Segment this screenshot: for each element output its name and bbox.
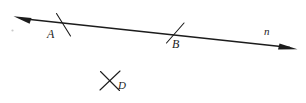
line-n-right-arrowhead	[278, 44, 298, 50]
point-d-label: D	[118, 80, 126, 91]
line-n-left-arrowhead	[14, 16, 32, 24]
geometry-canvas	[0, 0, 306, 103]
line-n-label: n	[264, 26, 270, 37]
point-a-tick-mark	[57, 14, 71, 37]
point-a-label: A	[47, 28, 54, 40]
point-d-x-mark	[100, 71, 120, 91]
geometry-figure: A B D n	[0, 0, 306, 103]
line-n	[14, 16, 298, 49]
point-b-label: B	[172, 38, 179, 50]
scan-speck	[11, 29, 13, 31]
line-n-shaft	[21, 19, 290, 48]
